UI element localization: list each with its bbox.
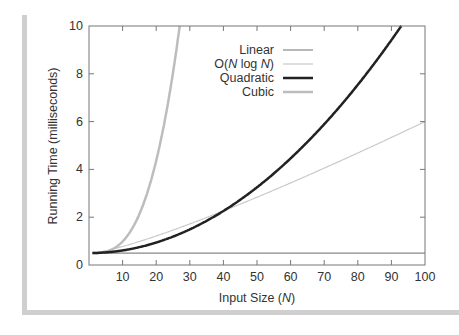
x-tick-label: 90	[384, 270, 398, 284]
y-tick-label: 8	[76, 67, 83, 81]
x-tick-label: 30	[183, 270, 197, 284]
x-tick-label: 10	[116, 270, 130, 284]
x-tick-label: 100	[415, 270, 436, 284]
y-tick-label: 0	[76, 258, 83, 272]
curve-cubic	[92, 26, 179, 253]
x-tick-label: 50	[250, 270, 264, 284]
legend-label: Quadratic	[220, 71, 274, 85]
x-tick-label: 40	[216, 270, 230, 284]
y-tick-label: 6	[76, 115, 83, 129]
y-tick-label: 2	[76, 210, 83, 224]
x-tick-label: 60	[284, 270, 298, 284]
x-tick-label: 20	[149, 270, 163, 284]
y-axis-label: Running Time (milliseconds)	[46, 67, 60, 224]
x-axis-label: Input Size (N)	[219, 291, 295, 305]
x-tick-label: 80	[351, 270, 365, 284]
legend-label: O(N log N)	[214, 57, 274, 71]
y-tick-label: 4	[76, 162, 83, 176]
chart-legend: LinearO(N log N)QuadraticCubic	[214, 43, 313, 99]
legend-label: Linear	[239, 43, 274, 57]
y-tick-label: 10	[69, 19, 83, 33]
running-time-chart: 1020304050607080901000246810 Running Tim…	[0, 0, 459, 335]
legend-label: Cubic	[242, 85, 274, 99]
x-tick-label: 70	[317, 270, 331, 284]
